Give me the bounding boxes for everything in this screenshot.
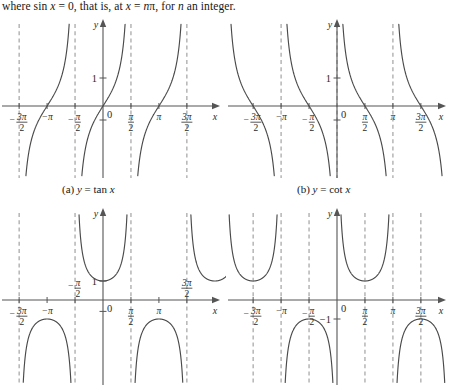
tick-label-denominator: 2 — [254, 317, 259, 327]
tick-label-sign: − — [68, 115, 73, 125]
tick-label-text: −π — [41, 112, 52, 122]
caption-b: (b) y = cot x — [297, 183, 350, 195]
graph-c-sec: xy0−3π2−π−π2π2π3π21 — [0, 207, 226, 387]
tick-label-sign: − — [302, 309, 307, 319]
tick-label-numerator: 3π — [181, 278, 192, 288]
origin-label: 0 — [107, 109, 112, 120]
tick-label-sign: − — [302, 115, 307, 125]
tick-label-numerator: π — [363, 112, 368, 122]
x-axis-arrow — [438, 103, 446, 109]
tick-label-numerator: π — [75, 278, 80, 288]
tick-label-denominator: 2 — [129, 123, 134, 133]
tick-label: π — [391, 112, 396, 122]
tick-label: −π — [275, 112, 286, 122]
x-axis-label: x — [438, 111, 444, 122]
x-axis-arrow — [212, 103, 220, 109]
tick-label-denominator: 2 — [309, 123, 314, 133]
caption-a-text: (a) y = tan x — [62, 183, 115, 195]
y-axis-arrow — [100, 208, 106, 216]
y-axis-label: y — [327, 208, 333, 219]
graph-d-canvas: xy0−3π2−π−π2π2π3π2−1 — [226, 207, 452, 387]
tick-label-text: −π — [275, 306, 286, 316]
graph-d-csc: xy0−3π2−π−π2π2π3π2−1 — [226, 207, 452, 387]
tick-label-numerator: π — [75, 112, 80, 122]
tick-label-denominator: 2 — [363, 317, 368, 327]
tick-label-numerator: π — [129, 112, 134, 122]
graph-b-cot: xy0−3π2−π−π2π2π3π21 — [226, 18, 452, 180]
tick-label: −π2 — [302, 112, 315, 133]
x-axis-label: x — [212, 111, 218, 122]
caption-a: (a) y = tan x — [62, 183, 115, 195]
y-axis-arrow — [334, 208, 340, 216]
tick-label-denominator: 2 — [184, 123, 189, 133]
tick-label-denominator: 2 — [75, 289, 80, 299]
tick-label-numerator: π — [309, 306, 314, 316]
y-axis-label: y — [93, 208, 99, 219]
tick-label-text: −π — [275, 112, 286, 122]
x-axis-arrow — [212, 297, 220, 303]
origin-label: 0 — [341, 303, 346, 314]
tick-label: π — [391, 306, 396, 316]
tick-label-denominator: 2 — [184, 289, 189, 299]
tick-label: −3π2 — [244, 306, 262, 327]
tick-label: −π2 — [302, 306, 315, 327]
tick-label-text: π — [391, 112, 396, 122]
tick-label-denominator: 2 — [20, 317, 25, 327]
tick-label-denominator: 2 — [20, 123, 25, 133]
tick-label: 3π2 — [181, 112, 192, 133]
y-tick-label: 1 — [92, 73, 97, 84]
curve-branch — [287, 24, 330, 175]
tick-label-numerator: 3π — [415, 112, 426, 122]
origin-label: 0 — [341, 109, 346, 120]
figure-page: where sin x = 0, that is, at x = nπ, for… — [0, 0, 452, 387]
tick-label: 3π2 — [415, 306, 426, 327]
curve-branch — [135, 319, 183, 382]
tick-label-numerator: 3π — [250, 306, 261, 316]
curve-branch — [343, 24, 386, 175]
origin-label: 0 — [107, 303, 112, 314]
tick-label: −π — [41, 112, 52, 122]
tick-label: π — [157, 112, 162, 122]
y-axis-arrow — [100, 19, 106, 27]
x-axis-label: x — [438, 305, 444, 316]
y-tick-label: −1 — [320, 314, 331, 325]
graph-b-canvas: xy0−3π2−π−π2π2π3π21 — [226, 18, 452, 180]
tick-label: −π — [41, 306, 52, 316]
tick-label-numerator: 3π — [181, 112, 192, 122]
tick-label-text: π — [157, 112, 162, 122]
tick-label-denominator: 2 — [75, 123, 80, 133]
tick-label: π — [157, 306, 162, 316]
curve-branch — [191, 215, 226, 281]
y-axis-arrow — [334, 19, 340, 27]
caption-b-text: (b) y = cot x — [297, 183, 350, 195]
intro-paragraph: where sin x = 0, that is, at x = nπ, for… — [2, 0, 236, 12]
tick-label-text: −π — [41, 306, 52, 316]
tick-label-sign: − — [244, 115, 249, 125]
tick-label: π2 — [362, 306, 368, 327]
tick-label: π2 — [128, 112, 134, 133]
tick-label-numerator: 3π — [16, 112, 27, 122]
tick-label-numerator: π — [363, 306, 368, 316]
tick-label: 3π2 — [415, 112, 426, 133]
tick-label-sign: − — [10, 115, 15, 125]
tick-label-sign: − — [10, 309, 15, 319]
tick-label-denominator: 2 — [363, 123, 368, 133]
graph-c-canvas: xy0−3π2−π−π2π2π3π21 — [0, 207, 226, 387]
tick-label-numerator: 3π — [415, 306, 426, 316]
tick-label-numerator: π — [129, 306, 134, 316]
tick-label-sign: − — [244, 309, 249, 319]
tick-label-denominator: 2 — [129, 317, 134, 327]
tick-label-numerator: 3π — [16, 306, 27, 316]
tick-label: 3π2 — [181, 278, 192, 299]
x-axis-label: x — [212, 305, 218, 316]
curve-branch — [138, 24, 181, 175]
tick-label: π2 — [128, 306, 134, 327]
graph-a-canvas: xy0−3π2−π−π2π2π3π21 — [0, 18, 226, 180]
tick-label-text: π — [157, 306, 162, 316]
y-axis-label: y — [327, 19, 333, 30]
curve-branch — [26, 24, 69, 175]
tick-label-text: π — [391, 306, 396, 316]
y-tick-label: 1 — [326, 73, 331, 84]
tick-label-denominator: 2 — [254, 123, 259, 133]
tick-label: −3π2 — [10, 306, 28, 327]
